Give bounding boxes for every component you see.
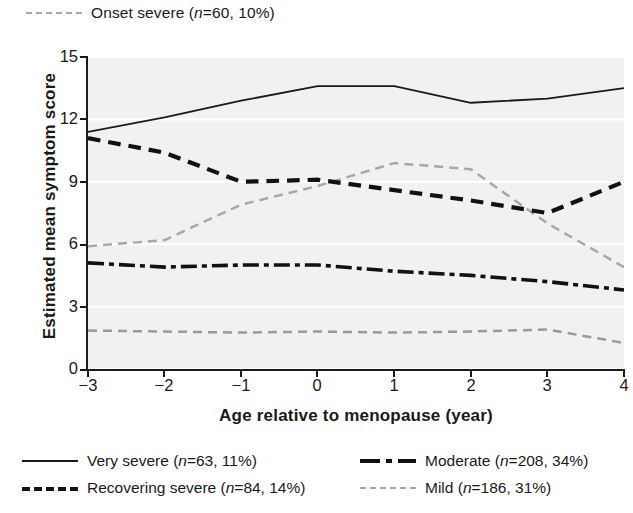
italic-n: n <box>178 452 187 469</box>
series-line-mild <box>88 329 624 343</box>
x-tick-label-1: 1 <box>374 376 414 395</box>
y-axis-title: Estimated mean symptom score <box>40 36 60 376</box>
series-line-very-severe <box>88 86 624 132</box>
y-tick-label-12: 12 <box>42 109 78 128</box>
chart-canvas <box>88 57 624 369</box>
y-tick-label-9: 9 <box>42 172 78 191</box>
y-axis-line <box>86 56 88 371</box>
x-tick-label--1: −1 <box>221 376 261 395</box>
legend-label-very-severe: Very severe (n=63, 11%) <box>87 452 257 470</box>
x-tick-label--2: −2 <box>144 376 184 395</box>
legend-entry-mild: Mild (n=186, 31%) <box>344 479 627 497</box>
legend-top: Onset severe (n=60, 10%) <box>26 0 275 26</box>
series-line-onset-severe <box>88 163 624 267</box>
legend-entry-recovering-severe: Recovering severe (n=84, 14%) <box>22 479 344 497</box>
y-tick-label-6: 6 <box>42 234 78 253</box>
legend-label-onset-severe: Onset severe (n=60, 10%) <box>91 4 275 22</box>
y-tick-label-15: 15 <box>42 47 78 66</box>
x-tick-label-0: 0 <box>297 376 337 395</box>
x-axis-title: Age relative to menopause (year) <box>88 406 624 426</box>
legend-entry-very-severe: Very severe (n=63, 11%) <box>22 452 344 470</box>
x-tick-label-4: 4 <box>604 376 633 395</box>
y-tick-label-3: 3 <box>42 297 78 316</box>
x-tick-label-3: 3 <box>527 376 567 395</box>
x-axis-line <box>86 369 625 371</box>
italic-n: n <box>463 479 472 496</box>
legend-label-moderate: Moderate (n=208, 34%) <box>425 452 588 470</box>
legend-label-recovering-severe: Recovering severe (n=84, 14%) <box>87 479 305 497</box>
plot-area <box>88 57 624 369</box>
series-line-recovering-severe <box>88 138 624 213</box>
italic-n: n <box>500 452 509 469</box>
legend-bottom: Very severe (n=63, 11%) Moderate (n=208,… <box>22 452 627 497</box>
legend-entry-moderate: Moderate (n=208, 34%) <box>344 452 627 470</box>
x-tick-label--3: −3 <box>68 376 108 395</box>
x-tick-label-2: 2 <box>451 376 491 395</box>
legend-label-mild: Mild (n=186, 31%) <box>425 479 551 497</box>
series-line-moderate <box>88 263 624 290</box>
series-lines <box>88 86 624 343</box>
italic-n: n <box>194 4 203 21</box>
